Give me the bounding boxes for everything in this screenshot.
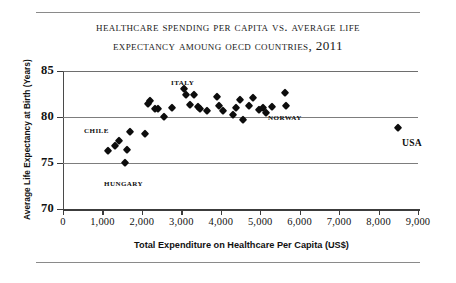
x-axis-line [63,209,420,211]
y-tick-80 [57,117,63,118]
x-tick-2000 [142,209,143,215]
y-tick-label-80: 80 [34,109,54,124]
y-tick-label-75: 75 [34,155,54,170]
y-tick-85 [57,71,63,72]
y-tick-75 [57,163,63,164]
y-axis-title: Average Life Expectancy at Birth (Years) [22,60,32,220]
annotation-norway: Norway [268,111,302,122]
chart-title: Healthcare Spending Per Capita vs. Avera… [28,17,428,55]
y-tick-label-70: 70 [34,201,54,216]
x-tick-3000 [181,209,182,215]
chart-title-line-2: Expectancy Amoung OECD Countries, 2011 [28,36,428,55]
y-tick-70 [57,209,63,210]
x-tick-4000 [221,209,222,215]
annotation-italy: Italy [171,76,194,87]
x-tick-5000 [260,209,261,215]
annotation-usa: USA [402,137,422,148]
annotation-hungary: Hungary [104,177,143,188]
bottom-divider-rule [36,262,420,263]
x-tick-label-9000: 9,000 [390,216,446,227]
gridline-y-75 [63,163,418,164]
annotation-chile: Chile [84,124,109,135]
y-tick-label-85: 85 [34,63,54,78]
x-axis-title: Total Expenditure on Healthcare Per Capi… [63,240,420,250]
x-tick-9000 [418,209,419,215]
x-tick-6000 [300,209,301,215]
x-tick-0 [63,209,64,215]
x-tick-8000 [379,209,380,215]
chart-figure: Healthcare Spending Per Capita vs. Avera… [0,0,456,283]
chart-title-line-1: Healthcare Spending Per Capita vs. Avera… [28,17,428,36]
x-tick-1000 [102,209,103,215]
top-divider-rule [36,12,420,13]
x-tick-7000 [339,209,340,215]
